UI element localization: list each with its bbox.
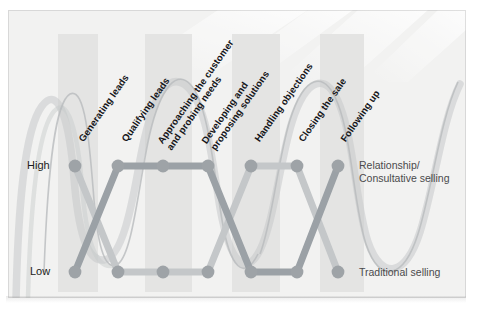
legend-traditional-selling: Traditional selling (359, 266, 440, 279)
frame-shadow (6, 296, 466, 303)
node-high-approaching-customer (157, 160, 170, 173)
legend-relationship-selling-line1: Relationship/ (359, 159, 420, 171)
node-high-following-up (332, 160, 345, 173)
diagram-frame: Generating leads Qualifying leads Approa… (8, 10, 466, 298)
axis-label-low: Low (30, 265, 50, 277)
node-high-generating-leads (69, 160, 82, 173)
axis-label-high: High (27, 159, 50, 171)
node-low-closing-sale (291, 266, 304, 279)
high-row-nodes (69, 160, 345, 173)
node-low-handling-objections (245, 266, 258, 279)
low-row-nodes (69, 266, 345, 279)
node-low-qualifying-leads (112, 266, 125, 279)
node-high-developing-solutions (202, 160, 215, 173)
legend-relationship-selling-line2: Consultative selling (359, 172, 449, 184)
node-high-handling-objections (245, 160, 258, 173)
node-low-developing-solutions (202, 266, 215, 279)
node-high-closing-sale (291, 160, 304, 173)
diagram-canvas: Generating leads Qualifying leads Approa… (0, 0, 478, 312)
node-low-approaching-customer (157, 266, 170, 279)
node-low-following-up (332, 266, 345, 279)
node-high-qualifying-leads (112, 160, 125, 173)
legend-relationship-selling: Relationship/ Consultative selling (359, 159, 449, 184)
node-low-generating-leads (69, 266, 82, 279)
